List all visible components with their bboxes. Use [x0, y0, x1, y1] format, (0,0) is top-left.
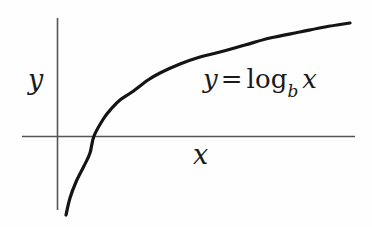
equation-argument: x [302, 64, 317, 94]
logarithm-graph-figure: y x y=logbx [0, 0, 372, 227]
y-axis-label: y [28, 66, 43, 93]
equation-operator: = [221, 64, 243, 94]
equation-annotation: y=logbx [203, 66, 317, 97]
x-axis-label: x [193, 141, 208, 168]
plot-canvas [0, 0, 372, 227]
log-curve [66, 23, 350, 215]
equation-lhs: y [203, 64, 218, 94]
equation-base-subscript: b [287, 81, 298, 101]
equation-function-name: log [247, 64, 288, 94]
